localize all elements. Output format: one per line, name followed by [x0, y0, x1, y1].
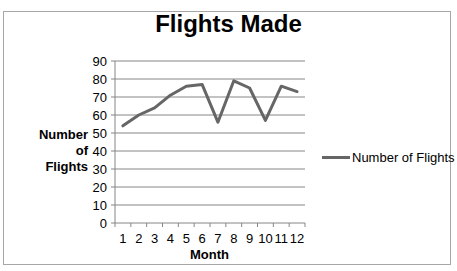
y-tick-label: 80 — [93, 72, 107, 87]
y-tick-label: 40 — [93, 144, 107, 159]
legend-label: Number of Flights — [352, 150, 455, 165]
y-axis-title-line1: Number of — [28, 127, 88, 159]
x-tick-label: 7 — [214, 231, 221, 246]
y-axis-title-line2: Flights — [28, 159, 88, 175]
y-tick-label: 0 — [100, 216, 107, 231]
x-axis-title: Month — [190, 247, 229, 262]
x-tick-label: 9 — [246, 231, 253, 246]
x-tick-label: 3 — [151, 231, 158, 246]
y-tick-label: 60 — [93, 108, 107, 123]
legend: Number of Flights — [322, 150, 455, 165]
x-tick-label: 12 — [290, 231, 304, 246]
x-tick-label: 5 — [183, 231, 190, 246]
y-tick-label: 10 — [93, 198, 107, 213]
y-tick-label: 90 — [93, 54, 107, 69]
x-tick-label: 11 — [275, 231, 289, 246]
x-tick-label: 6 — [198, 231, 205, 246]
y-axis-title: Number of Flights — [28, 127, 88, 175]
x-tick-label: 10 — [258, 231, 272, 246]
legend-line-swatch — [322, 156, 350, 159]
x-tick-label: 8 — [230, 231, 237, 246]
x-tick-label: 4 — [167, 231, 174, 246]
x-tick-label: 2 — [135, 231, 142, 246]
y-tick-label: 50 — [93, 126, 107, 141]
x-tick-label: 1 — [119, 231, 126, 246]
series-line — [123, 81, 297, 126]
y-tick-label: 70 — [93, 90, 107, 105]
y-tick-label: 20 — [93, 180, 107, 195]
y-tick-label: 30 — [93, 162, 107, 177]
